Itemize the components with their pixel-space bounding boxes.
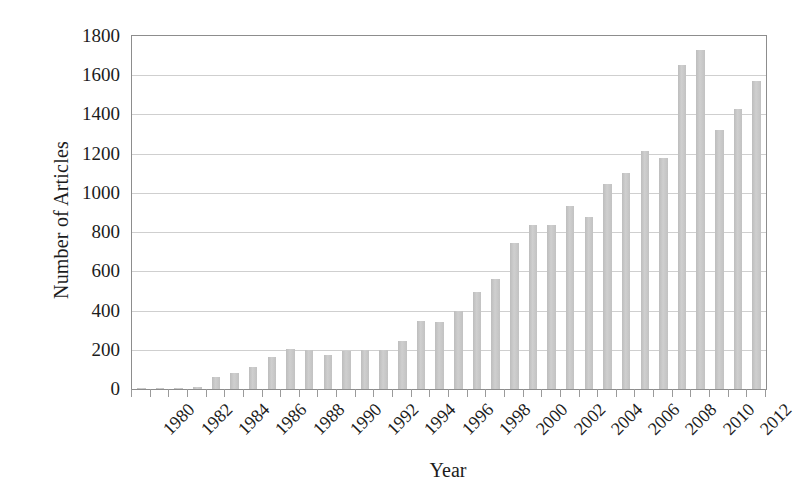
x-tick-label: 1982	[197, 400, 235, 438]
x-tick-label: 2012	[757, 400, 795, 438]
x-tick-label: 1998	[496, 400, 534, 438]
x-tick-label: 2002	[570, 400, 608, 438]
x-axis-title: Year	[131, 458, 765, 482]
x-tick-label: 2004	[607, 400, 645, 438]
x-tick-label: 2010	[719, 400, 757, 438]
x-tick-label: 1988	[309, 400, 347, 438]
x-tick-label: 1984	[234, 400, 272, 438]
x-tick-label: 1980	[160, 400, 198, 438]
x-tick-label: 2006	[645, 400, 683, 438]
x-tick-label: 1990	[346, 400, 384, 438]
bar-chart: Number of Articles 180016001400120010008…	[0, 0, 795, 496]
x-axis-tick-labels: 1980198219841986198819901992199419961998…	[0, 0, 795, 496]
x-tick-label: 2008	[682, 400, 720, 438]
x-tick-label: 1994	[421, 400, 459, 438]
x-tick-label: 2000	[533, 400, 571, 438]
x-tick-label: 1986	[272, 400, 310, 438]
x-tick-label: 1992	[384, 400, 422, 438]
x-tick-label: 1996	[458, 400, 496, 438]
